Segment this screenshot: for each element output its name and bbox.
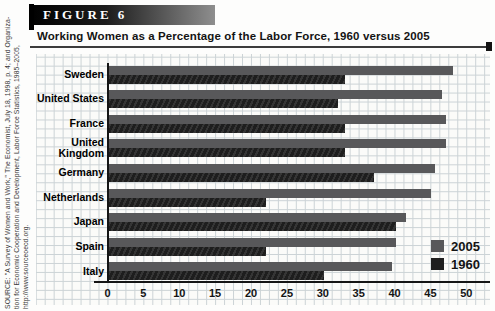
bar-2005-japan [109,213,407,222]
category-label-united-kingdom: United Kingdom [36,135,104,161]
chart-paper: SwedenUnited StatesFranceUnited KingdomG… [36,54,490,305]
category-label-sweden: Sweden [36,62,104,88]
x-axis-line [94,281,490,283]
source-note: SOURCE: "A Survey of Women and Work," Th… [4,11,30,309]
bar-1960-united-states [109,99,339,108]
legend-label-2005: 2005 [451,239,480,254]
bar-2005-sweden [109,66,453,75]
bar-2005-germany [109,164,436,173]
x-tick-label-5: 5 [140,287,146,299]
bar-2005-france [109,115,446,124]
title-rule-endcap [486,42,492,51]
category-label-italy: Italy [36,258,104,284]
x-tick-label-40: 40 [388,287,400,299]
bar-1960-france [109,124,346,133]
legend-item-2005: 2005 [431,238,480,254]
category-label-netherlands: Netherlands [36,185,104,211]
bar-1960-netherlands [109,198,267,207]
bar-2005-netherlands [109,189,432,198]
x-tick-label-0: 0 [104,287,110,299]
bar-1960-spain [109,247,267,256]
x-tick-label-25: 25 [281,287,293,299]
figure-panel: SOURCE: "A Survey of Women and Work," Th… [0,0,495,311]
bar-1960-united-kingdom [109,148,346,157]
x-tick-label-35: 35 [353,287,365,299]
figure-title: Working Women as a Percentage of the Lab… [37,30,489,42]
legend-swatch-2005 [431,240,444,252]
x-tick-label-50: 50 [460,287,472,299]
legend-label-1960: 1960 [451,257,480,272]
source-note-line: http://www.sourceoecd.org. [22,11,31,309]
category-label-france: France [36,111,104,137]
x-tick-label-10: 10 [173,287,185,299]
bar-2005-spain [109,238,396,247]
bar-2005-italy [109,262,392,271]
legend: 20051960 [431,238,480,274]
bar-2005-united-states [109,90,443,99]
legend-swatch-1960 [431,258,444,270]
category-label-japan: Japan [36,209,104,235]
x-tick-label-30: 30 [317,287,329,299]
x-tick-label-15: 15 [209,287,221,299]
title-rule [30,46,491,48]
category-label-germany: Germany [36,160,104,186]
bar-1960-japan [109,222,396,231]
source-note-line: tion for Economic Cooperation and Develo… [13,11,22,309]
source-note-line: SOURCE: "A Survey of Women and Work," Th… [4,11,13,309]
bar-1960-sweden [109,75,346,84]
bar-2005-united-kingdom [109,139,446,148]
x-tick-label-45: 45 [424,287,436,299]
figure-label: FIGURE 6 [43,7,127,23]
legend-item-1960: 1960 [431,256,480,272]
x-tick-label-20: 20 [245,287,257,299]
bar-1960-italy [109,271,324,280]
figure-label-bar: FIGURE 6 [34,5,215,25]
category-label-spain: Spain [36,234,104,260]
bar-1960-germany [109,173,375,182]
category-label-united-states: United States [36,86,104,112]
